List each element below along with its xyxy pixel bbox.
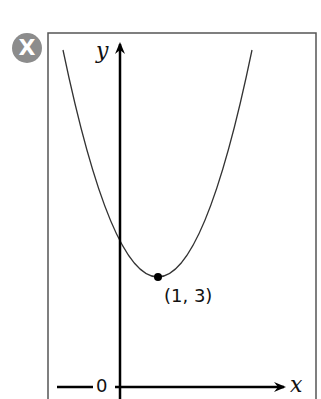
origin-label: 0 [96, 375, 107, 396]
frame [48, 33, 316, 399]
vertex-point [154, 273, 162, 281]
vertex-label: (1, 3) [164, 285, 212, 306]
parabola-curve [63, 50, 252, 277]
y-axis-label: y [96, 38, 108, 63]
x-axis-label: x [290, 372, 302, 397]
graph [0, 0, 321, 399]
